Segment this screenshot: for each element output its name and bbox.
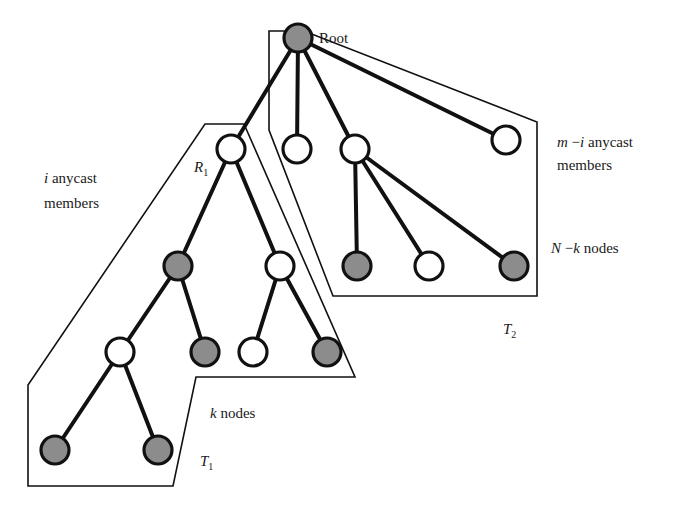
r1-label-main: R <box>193 159 203 175</box>
region-t2-boundary <box>269 31 537 296</box>
nk-rest: nodes <box>580 240 619 256</box>
i-members-rest: anycast <box>48 170 98 186</box>
m-i-anycast-members-label: m −i anycast <box>557 134 634 150</box>
edge-n3-n6 <box>355 149 429 266</box>
t1-label-sub: 1 <box>208 461 213 472</box>
edge-root-n2 <box>297 38 298 149</box>
m-i-anycast-members-label-line2: members <box>557 157 612 173</box>
r1-node <box>217 135 245 163</box>
edge-n3-n5 <box>355 149 357 266</box>
k-nodes-label: k nodes <box>210 405 256 421</box>
tree-node <box>266 252 294 280</box>
anycast-member-node <box>164 252 192 280</box>
anycast-tree-diagram: Root R1 i anycast members m −i anycast m… <box>0 0 678 520</box>
anycast-member-node <box>313 338 341 366</box>
edge-r1-n9 <box>231 149 280 266</box>
t2-label-sub: 2 <box>511 329 516 340</box>
tree-node <box>239 338 267 366</box>
r1-label: R1 <box>193 159 208 178</box>
tree-node <box>492 126 520 154</box>
edge-n10-n15 <box>120 352 158 450</box>
edge-root-r1 <box>231 38 298 149</box>
root-label: Root <box>319 30 349 46</box>
edge-root-n3 <box>298 38 355 149</box>
anycast-member-node <box>41 436 69 464</box>
k-nodes-rest: nodes <box>217 405 256 421</box>
tree-node <box>283 135 311 163</box>
tree-node <box>106 338 134 366</box>
anycast-member-node <box>343 252 371 280</box>
tree-node <box>415 252 443 280</box>
root-node <box>284 24 312 52</box>
edge-n3-n7 <box>355 149 514 266</box>
anycast-member-node <box>500 252 528 280</box>
i-anycast-members-label: i anycast <box>44 170 98 186</box>
i-anycast-members-label-line2: members <box>44 195 99 211</box>
m-var: m <box>557 134 568 150</box>
edge-root-n4 <box>298 38 506 140</box>
minus-sign: − <box>561 240 573 256</box>
t1-label: T1 <box>200 453 213 472</box>
minus-sign: − <box>568 134 580 150</box>
t2-label: T2 <box>503 321 516 340</box>
anycast-member-node <box>144 436 172 464</box>
n-k-nodes-label: N −k nodes <box>550 240 619 256</box>
edge-n10-n14 <box>55 352 120 450</box>
tree-node <box>341 135 369 163</box>
anycast-member-node <box>191 338 219 366</box>
m-i-members-rest: anycast <box>584 134 634 150</box>
r1-label-sub: 1 <box>203 167 208 178</box>
